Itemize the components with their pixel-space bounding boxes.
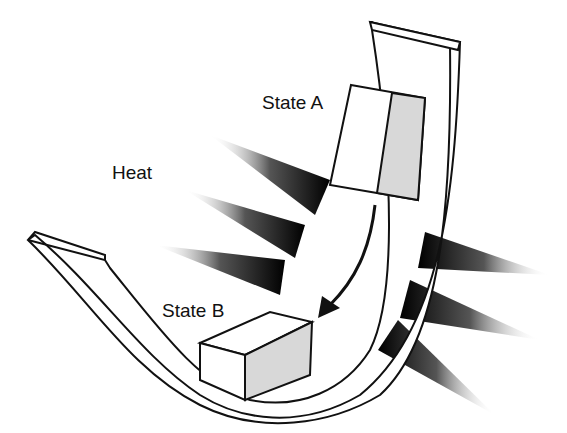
- heat-rays-left: [155, 135, 330, 295]
- label-heat: Heat: [112, 162, 152, 184]
- block-state-a: [330, 85, 425, 200]
- heat-rays-right: [378, 232, 550, 415]
- label-state-b: State B: [162, 300, 224, 322]
- diagram-graphic: [0, 0, 567, 433]
- arrow-a-to-b: [318, 205, 375, 318]
- block-state-b: [200, 312, 312, 400]
- diagram: State A Heat State B: [0, 0, 567, 433]
- label-state-a: State A: [262, 92, 323, 114]
